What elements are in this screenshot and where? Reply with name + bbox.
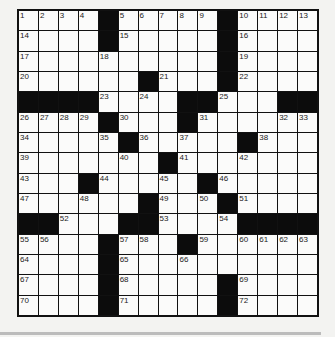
crossword-cell[interactable]: 62: [278, 235, 297, 254]
crossword-cell[interactable]: [59, 52, 78, 71]
crossword-cell[interactable]: [79, 31, 98, 50]
crossword-cell[interactable]: [159, 31, 178, 50]
crossword-cell[interactable]: [39, 194, 58, 213]
crossword-cell[interactable]: 5: [119, 11, 138, 30]
crossword-cell[interactable]: 23: [99, 92, 118, 111]
crossword-cell[interactable]: 34: [19, 133, 38, 152]
crossword-cell[interactable]: [139, 113, 158, 132]
crossword-cell[interactable]: [258, 153, 277, 172]
crossword-cell[interactable]: 15: [119, 31, 138, 50]
crossword-cell[interactable]: [59, 255, 78, 274]
crossword-cell[interactable]: [59, 174, 78, 193]
crossword-cell[interactable]: 8: [178, 11, 197, 30]
crossword-cell[interactable]: [238, 174, 257, 193]
crossword-cell[interactable]: 38: [258, 133, 277, 152]
crossword-cell[interactable]: [79, 296, 98, 315]
crossword-cell[interactable]: 69: [238, 275, 257, 294]
crossword-cell[interactable]: 59: [198, 235, 217, 254]
crossword-cell[interactable]: [278, 174, 297, 193]
crossword-cell[interactable]: [178, 275, 197, 294]
crossword-cell[interactable]: [79, 133, 98, 152]
crossword-cell[interactable]: [79, 214, 98, 233]
crossword-cell[interactable]: 65: [119, 255, 138, 274]
crossword-cell[interactable]: 35: [99, 133, 118, 152]
crossword-cell[interactable]: [39, 72, 58, 91]
crossword-cell[interactable]: [59, 133, 78, 152]
crossword-cell[interactable]: [139, 174, 158, 193]
crossword-cell[interactable]: 39: [19, 153, 38, 172]
crossword-cell[interactable]: [178, 214, 197, 233]
crossword-cell[interactable]: 54: [218, 214, 237, 233]
crossword-cell[interactable]: 22: [238, 72, 257, 91]
crossword-cell[interactable]: [298, 275, 317, 294]
crossword-cell[interactable]: 13: [298, 11, 317, 30]
crossword-cell[interactable]: [139, 255, 158, 274]
crossword-cell[interactable]: 33: [298, 113, 317, 132]
crossword-cell[interactable]: [298, 153, 317, 172]
crossword-cell[interactable]: [59, 296, 78, 315]
crossword-cell[interactable]: [159, 133, 178, 152]
crossword-cell[interactable]: [59, 153, 78, 172]
crossword-cell[interactable]: 43: [19, 174, 38, 193]
crossword-cell[interactable]: 4: [79, 11, 98, 30]
crossword-cell[interactable]: [278, 194, 297, 213]
crossword-cell[interactable]: 18: [99, 52, 118, 71]
crossword-cell[interactable]: 55: [19, 235, 38, 254]
crossword-cell[interactable]: [139, 31, 158, 50]
crossword-cell[interactable]: [99, 214, 118, 233]
crossword-cell[interactable]: 12: [278, 11, 297, 30]
crossword-cell[interactable]: 11: [258, 11, 277, 30]
crossword-cell[interactable]: [39, 52, 58, 71]
crossword-cell[interactable]: [278, 275, 297, 294]
crossword-cell[interactable]: [159, 113, 178, 132]
crossword-cell[interactable]: 52: [59, 214, 78, 233]
crossword-cell[interactable]: 25: [218, 92, 237, 111]
crossword-cell[interactable]: [298, 72, 317, 91]
crossword-cell[interactable]: [79, 52, 98, 71]
crossword-cell[interactable]: [178, 194, 197, 213]
crossword-cell[interactable]: [159, 275, 178, 294]
crossword-cell[interactable]: [139, 275, 158, 294]
crossword-cell[interactable]: 2: [39, 11, 58, 30]
crossword-cell[interactable]: 49: [159, 194, 178, 213]
crossword-cell[interactable]: [238, 255, 257, 274]
crossword-cell[interactable]: [59, 235, 78, 254]
crossword-cell[interactable]: [218, 113, 237, 132]
crossword-cell[interactable]: [218, 153, 237, 172]
crossword-cell[interactable]: [59, 275, 78, 294]
crossword-cell[interactable]: [278, 153, 297, 172]
crossword-cell[interactable]: [278, 296, 297, 315]
crossword-cell[interactable]: [139, 52, 158, 71]
crossword-cell[interactable]: [59, 194, 78, 213]
crossword-cell[interactable]: 40: [119, 153, 138, 172]
crossword-cell[interactable]: [238, 113, 257, 132]
crossword-cell[interactable]: [258, 52, 277, 71]
crossword-cell[interactable]: [258, 255, 277, 274]
crossword-cell[interactable]: [258, 194, 277, 213]
crossword-cell[interactable]: [99, 194, 118, 213]
crossword-cell[interactable]: 64: [19, 255, 38, 274]
crossword-cell[interactable]: [119, 174, 138, 193]
crossword-cell[interactable]: [278, 52, 297, 71]
crossword-cell[interactable]: 51: [238, 194, 257, 213]
crossword-cell[interactable]: [79, 235, 98, 254]
crossword-cell[interactable]: 27: [39, 113, 58, 132]
crossword-cell[interactable]: [178, 174, 197, 193]
crossword-cell[interactable]: 66: [178, 255, 197, 274]
crossword-cell[interactable]: 1: [19, 11, 38, 30]
crossword-cell[interactable]: 70: [19, 296, 38, 315]
crossword-cell[interactable]: [198, 255, 217, 274]
crossword-cell[interactable]: [159, 255, 178, 274]
crossword-cell[interactable]: [159, 92, 178, 111]
crossword-cell[interactable]: 61: [258, 235, 277, 254]
crossword-cell[interactable]: [39, 255, 58, 274]
crossword-cell[interactable]: 67: [19, 275, 38, 294]
crossword-cell[interactable]: [278, 72, 297, 91]
crossword-cell[interactable]: [298, 255, 317, 274]
crossword-cell[interactable]: [39, 275, 58, 294]
crossword-cell[interactable]: 6: [139, 11, 158, 30]
crossword-cell[interactable]: 60: [238, 235, 257, 254]
crossword-cell[interactable]: [159, 52, 178, 71]
crossword-cell[interactable]: [298, 52, 317, 71]
crossword-cell[interactable]: [79, 255, 98, 274]
